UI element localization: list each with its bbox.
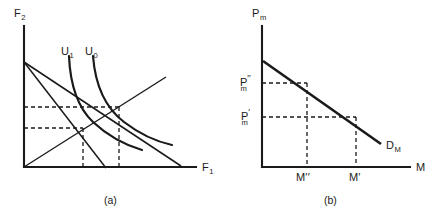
curve-label-u0-base: U xyxy=(85,45,93,57)
panel-b-x-axis-label: M xyxy=(416,162,425,173)
panel-a-y-axis-label: F2 xyxy=(14,8,25,19)
budget-line-flat xyxy=(24,62,181,166)
demand-curve-dm xyxy=(263,61,381,144)
price-tick-single-prime-marks: ′ xyxy=(248,107,250,117)
panel-a-y-axis-label-sub: 2 xyxy=(21,13,25,22)
panel-a-x-axis-label: F1 xyxy=(202,162,213,173)
panel-a-x-axis-label-base: F xyxy=(202,161,209,173)
demand-curve-label-base: D xyxy=(386,139,394,151)
demand-curve-label-sub: M xyxy=(395,145,402,154)
curve-label-u0: U0 xyxy=(85,46,98,57)
price-tick-single-prime-base: Pm xyxy=(241,111,248,122)
panel-b-y-axis-label: Pm xyxy=(252,8,266,19)
figure-canvas xyxy=(0,0,441,219)
panel-a-graphics xyxy=(24,26,196,168)
price-tick-double-prime-marks: ′′ xyxy=(247,73,250,83)
panel-a-caption: (a) xyxy=(104,194,117,206)
economics-figure: F2 F1 U1 U0 (a) Pm M Pm′′ Pm′ M′′ M′ DM … xyxy=(0,0,441,219)
budget-line-steep xyxy=(24,62,106,168)
price-tick-single-prime: Pm′ xyxy=(241,108,250,122)
price-tick-double-prime: Pm′′ xyxy=(240,74,251,88)
panel-b-y-axis-label-sub: m xyxy=(260,13,267,22)
panel-a-y-axis-label-base: F xyxy=(14,7,21,19)
demand-curve-label: DM xyxy=(386,140,401,151)
quantity-tick-single-prime: M′ xyxy=(349,172,361,183)
quantity-tick-double-prime: M′′ xyxy=(296,172,310,183)
price-tick-single-prime-sub: m xyxy=(242,119,248,127)
curve-label-u0-sub: 0 xyxy=(94,51,98,60)
panel-b-y-axis-label-base: P xyxy=(252,7,260,19)
curve-label-u1: U1 xyxy=(61,46,74,57)
indifference-curve-u1 xyxy=(69,56,142,150)
curve-label-u1-base: U xyxy=(61,45,69,57)
panel-b-caption: (b) xyxy=(324,194,337,206)
price-tick-double-prime-sub: m xyxy=(241,85,247,93)
panel-a-x-axis-label-sub: 1 xyxy=(209,167,213,176)
price-tick-double-prime-base: Pm xyxy=(240,77,247,88)
curve-label-u1-sub: 1 xyxy=(70,51,74,60)
